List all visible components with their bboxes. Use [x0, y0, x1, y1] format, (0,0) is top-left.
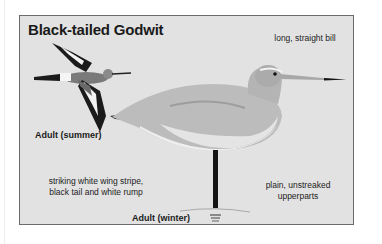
label-adult-winter: Adult (winter)	[132, 213, 190, 223]
page-edge-line	[4, 0, 5, 244]
note-wing-line-1: striking white wing stripe,	[36, 176, 156, 187]
label-adult-summer: Adult (summer)	[35, 130, 102, 140]
note-bill: long, straight bill	[265, 33, 345, 44]
note-wing-stripe: striking white wing stripe, black tail a…	[36, 176, 156, 198]
plate-title: Black-tailed Godwit	[28, 21, 163, 38]
note-upperparts-line-1: plain, unstreaked	[255, 180, 341, 191]
note-upperparts-line-2: upperparts	[255, 191, 341, 202]
note-wing-line-2: black tail and white rump	[36, 187, 156, 198]
note-upperparts: plain, unstreaked upperparts	[255, 180, 341, 202]
illustration-plate: Black-tailed Godwit Adult (summer) Adult…	[19, 15, 354, 225]
